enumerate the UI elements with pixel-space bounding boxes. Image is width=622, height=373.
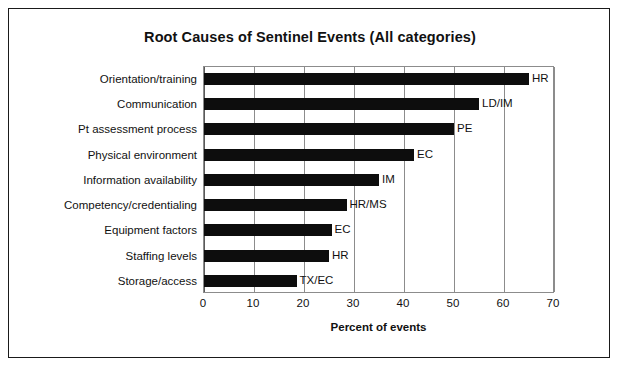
bar	[204, 149, 414, 161]
figure-frame: Root Causes of Sentinel Events (All cate…	[8, 8, 610, 358]
bar-annotation-label: IM	[379, 169, 395, 190]
bar-annotation-label: HR	[529, 68, 549, 89]
bar-annotation-label: TX/EC	[297, 270, 334, 291]
gridline-70	[554, 67, 555, 292]
bar	[204, 98, 479, 110]
bar-row: CommunicationLD/IM	[204, 92, 553, 117]
bar	[204, 224, 332, 236]
category-label: Equipment factors	[17, 218, 204, 243]
bar	[204, 199, 347, 211]
bar-row: Storage/accessTX/EC	[204, 269, 553, 294]
bar-row: Staffing levelsHR	[204, 244, 553, 269]
bar-annotation-label: HR	[329, 245, 349, 266]
category-label: Storage/access	[17, 269, 204, 294]
plot-area: Orientation/trainingHRCommunicationLD/IM…	[203, 66, 554, 293]
x-tick-label-30: 30	[347, 297, 360, 309]
x-tick-label-0: 0	[200, 297, 206, 309]
category-label: Physical environment	[17, 143, 204, 168]
category-label: Staffing levels	[17, 244, 204, 269]
bar-annotation-label: PE	[454, 118, 472, 139]
bar	[204, 250, 329, 262]
x-tick-label-40: 40	[397, 297, 410, 309]
bar	[204, 174, 379, 186]
bar-row: Information availabilityIM	[204, 168, 553, 193]
x-tick-label-20: 20	[297, 297, 310, 309]
x-tick-label-60: 60	[497, 297, 510, 309]
chart-title: Root Causes of Sentinel Events (All cate…	[9, 29, 611, 45]
bar-row: Orientation/trainingHR	[204, 67, 553, 92]
bar-annotation-label: EC	[332, 219, 351, 240]
bar-annotation-label: HR/MS	[347, 194, 387, 215]
bar-row: Competency/credentialingHR/MS	[204, 193, 553, 218]
bar-row: Pt assessment processPE	[204, 117, 553, 142]
category-label: Communication	[17, 92, 204, 117]
x-tick-label-10: 10	[247, 297, 260, 309]
bar-annotation-label: EC	[414, 144, 433, 165]
bar	[204, 73, 529, 85]
category-label: Information availability	[17, 168, 204, 193]
bar-row: Physical environmentEC	[204, 143, 553, 168]
category-label: Pt assessment process	[17, 117, 204, 142]
bar	[204, 123, 454, 135]
bar-annotation-label: LD/IM	[479, 93, 513, 114]
category-label: Orientation/training	[17, 67, 204, 92]
x-tick-label-70: 70	[547, 297, 560, 309]
category-label: Competency/credentialing	[17, 193, 204, 218]
bar-row: Equipment factorsEC	[204, 218, 553, 243]
x-tick-label-50: 50	[447, 297, 460, 309]
x-axis-title: Percent of events	[203, 321, 554, 333]
bar	[204, 275, 297, 287]
